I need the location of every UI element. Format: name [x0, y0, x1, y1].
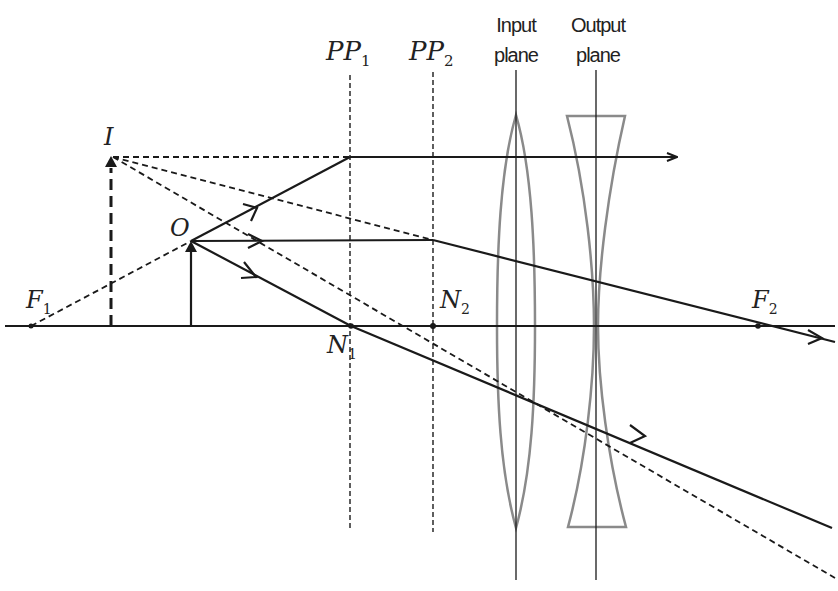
pp1-label: PP1 [325, 36, 371, 70]
input-plane-label-line1: Input [496, 14, 537, 36]
diagram-canvas: PP1 PP2 Input plane Output plane I O F1 … [0, 0, 838, 591]
ray-nodal [191, 241, 832, 528]
input-plane-label-line2: plane [494, 44, 539, 66]
f1-label: F1 [25, 286, 52, 317]
n1-point [348, 323, 354, 329]
n2-point [430, 323, 436, 329]
f2-point [755, 323, 761, 329]
image-label: I [103, 123, 114, 151]
n2-label: N2 [439, 286, 470, 317]
n1-label: N1 [326, 331, 357, 362]
ray-focal [191, 157, 350, 241]
pp2-label: PP2 [408, 36, 454, 70]
object-label: O [170, 214, 190, 242]
f2-label: F2 [751, 286, 778, 317]
ray-parallel [191, 234, 835, 344]
output-plane-label-line1: Output [571, 14, 626, 36]
f1-point [29, 324, 34, 329]
output-plane-label-line2: plane [576, 44, 621, 66]
optics-diagram: PP1 PP2 Input plane Output plane I O F1 … [0, 0, 838, 591]
